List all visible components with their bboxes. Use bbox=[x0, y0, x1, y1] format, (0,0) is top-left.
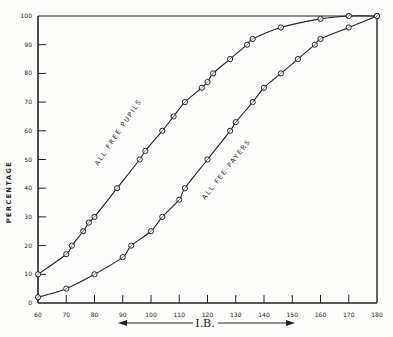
y-tick-label: 40 bbox=[24, 184, 32, 191]
x-tick-label: 60 bbox=[34, 311, 42, 318]
x-tick-label: 110 bbox=[174, 311, 186, 318]
series-free-pupils bbox=[35, 13, 379, 277]
y-tick-label: 80 bbox=[24, 69, 32, 76]
x-tick-label: 160 bbox=[315, 311, 327, 318]
y-tick-label: 30 bbox=[24, 213, 32, 220]
y-tick-label: 0 bbox=[28, 299, 32, 306]
data-series bbox=[35, 13, 379, 299]
x-tick-label: 70 bbox=[62, 311, 70, 318]
y-tick-label: 10 bbox=[24, 270, 32, 277]
y-axis-title: PERCENTAGE bbox=[5, 161, 13, 224]
y-tick-label: 20 bbox=[24, 242, 32, 249]
x-axis-title: I.B. bbox=[195, 317, 214, 330]
x-tick-label: 140 bbox=[258, 311, 270, 318]
y-tick-label: 60 bbox=[24, 127, 32, 134]
curve-label-free-pupils: ALL FREE PUPILS bbox=[93, 98, 144, 168]
x-tick-label: 80 bbox=[91, 311, 99, 318]
x-axis-ticks: 60708090100110120130140150160170180 bbox=[34, 295, 383, 318]
ib-arrow: I.B. bbox=[118, 317, 295, 330]
cumulative-percentage-chart: 0102030405060708090100 60708090100110120… bbox=[0, 0, 393, 337]
x-tick-label: 180 bbox=[371, 311, 383, 318]
y-tick-label: 50 bbox=[24, 156, 32, 163]
x-tick-label: 150 bbox=[287, 311, 299, 318]
x-tick-label: 170 bbox=[343, 311, 355, 318]
y-tick-label: 90 bbox=[24, 41, 32, 48]
x-tick-label: 130 bbox=[230, 311, 242, 318]
series-fee-payers bbox=[35, 13, 379, 299]
y-axis-ticks: 0102030405060708090100 bbox=[21, 12, 46, 306]
curve-label-fee-payers: ALL FEE-PAYERS bbox=[200, 138, 252, 202]
x-tick-label: 100 bbox=[145, 311, 157, 318]
x-tick-label: 90 bbox=[119, 311, 127, 318]
y-tick-label: 100 bbox=[21, 12, 33, 19]
y-tick-label: 70 bbox=[24, 98, 32, 105]
